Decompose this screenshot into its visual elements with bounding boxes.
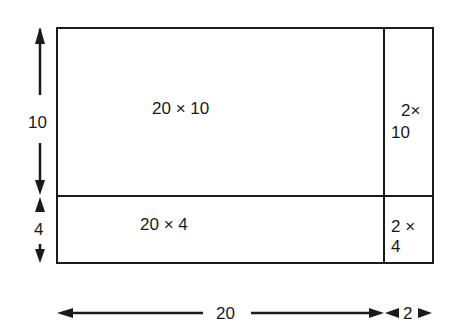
- region-bottom-right-label-1: 2 ×: [391, 218, 415, 235]
- height-top-label: 10: [28, 114, 47, 131]
- height-bottom-label: 4: [34, 221, 43, 238]
- height-10-arrow: [35, 27, 45, 195]
- region-bottom-left-label: 20 × 4: [140, 216, 188, 233]
- outer-rectangle: [57, 28, 433, 263]
- region-top-left-label: 20 × 10: [152, 100, 209, 117]
- width-right-label: 2: [403, 305, 412, 322]
- region-top-right-label-1: 2×: [401, 102, 420, 119]
- region-bottom-right-label-2: 4: [391, 238, 400, 255]
- width-left-label: 20: [216, 305, 235, 322]
- area-model-diagram: [0, 0, 451, 325]
- region-top-right-label-2: 10: [391, 124, 410, 141]
